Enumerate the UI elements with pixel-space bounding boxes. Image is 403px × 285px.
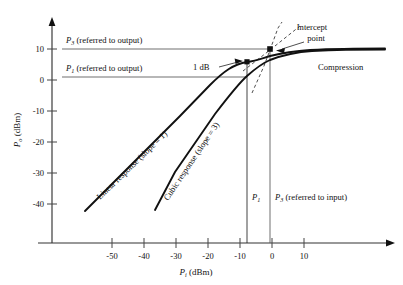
- p3-output-label: P3 (referred to output): [65, 35, 142, 46]
- intercept-point-marker: [267, 46, 273, 52]
- x-axis-title: Pi (dBm): [179, 267, 213, 278]
- y-axis-title: Po (dBm): [12, 113, 23, 148]
- amplifier-compression-chart: 10 0 -10 -20 -30 -40 -50 -40 -30 -20 -10: [0, 0, 403, 285]
- y-tick-label-neg40: -40: [33, 199, 44, 209]
- chart-container: 10 0 -10 -20 -30 -40 -50 -40 -30 -20 -10: [0, 0, 403, 285]
- y-tick-label-0: 0: [40, 75, 44, 85]
- y-tick-label-10: 10: [36, 44, 45, 54]
- linear-response-label: Linear response (slope = 1): [94, 129, 169, 202]
- p3-input-label-text: (referred to input): [283, 192, 347, 202]
- x-axis-title-unit: (dBm): [187, 267, 213, 277]
- x-tick-label-neg10: -10: [234, 251, 245, 261]
- y-axis-arrowhead: [49, 17, 56, 26]
- p1-output-label-text: (referred to output): [74, 63, 142, 73]
- x-tick-label-neg20: -20: [202, 251, 213, 261]
- x-tick-label-neg40: -40: [138, 251, 149, 261]
- one-db-label: 1 dB: [193, 62, 210, 72]
- intercept-leader-line: [282, 42, 304, 49]
- p1-input-label-subscript: 1: [257, 196, 260, 203]
- intercept-arrowhead: [276, 48, 285, 53]
- x-tick-label-10: 10: [300, 251, 309, 261]
- p3-input-label: P3 (referred to input): [274, 192, 347, 203]
- p1-input-label: P1: [251, 192, 260, 203]
- y-axis-title-unit: (dBm): [12, 113, 22, 139]
- p1-output-label: P1 (referred to output): [65, 63, 142, 74]
- x-axis-arrowhead: [386, 240, 395, 247]
- y-tick-label-neg20: -20: [33, 137, 44, 147]
- intercept-point-label-line1: Intercept: [297, 22, 328, 32]
- y-tick-label-neg10: -10: [33, 106, 44, 116]
- x-tick-label-neg30: -30: [170, 251, 181, 261]
- intercept-point-label-line2: point: [307, 33, 325, 43]
- cubic-response-label: Cubic response (slope = 3): [161, 120, 221, 202]
- x-axis-ticks: -50 -40 -30 -20 -10 0 10: [106, 238, 308, 261]
- p3-output-label-text: (referred to output): [74, 35, 142, 45]
- x-tick-label-0: 0: [270, 251, 274, 261]
- y-tick-label-neg30: -30: [33, 168, 44, 178]
- y-axis-ticks: 10 0 -10 -20 -30 -40: [33, 44, 57, 209]
- x-tick-label-neg50: -50: [106, 251, 117, 261]
- one-db-compression-marker: [244, 59, 249, 64]
- compression-label: Compression: [318, 62, 364, 72]
